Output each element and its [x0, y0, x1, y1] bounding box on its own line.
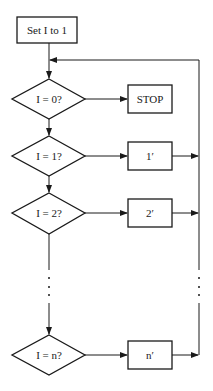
decision-label: I = n?	[36, 349, 62, 361]
action-box-n: n′	[128, 341, 172, 369]
action-box-1: 1′	[128, 142, 172, 170]
start-label: Set I to 1	[27, 24, 67, 36]
action-label: 1′	[146, 150, 154, 162]
decision-i-equals-n: I = n?	[12, 335, 85, 375]
action-label: n′	[146, 349, 154, 361]
stop-box: STOP	[128, 85, 172, 113]
start-box: Set I to 1	[17, 17, 77, 43]
return-line-ellipsis	[198, 277, 200, 296]
decision-i-equals-1: I = 1?	[12, 136, 85, 176]
action-label: 2′	[146, 207, 154, 219]
stop-label: STOP	[137, 93, 164, 105]
flowchart: Set I to 1 I = 0? STOP I = 1? 1′ I = 2?	[0, 0, 213, 391]
decision-i-equals-2: I = 2?	[12, 193, 85, 234]
action-box-2: 2′	[128, 199, 172, 227]
decision-label: I = 0?	[36, 93, 62, 105]
decision-i-equals-0: I = 0?	[12, 79, 85, 119]
decision-label: I = 1?	[36, 150, 62, 162]
decision-label: I = 2?	[36, 207, 62, 219]
continuation-ellipsis	[48, 277, 50, 296]
